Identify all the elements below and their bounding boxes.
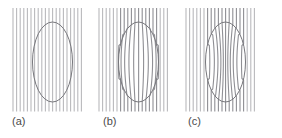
panel-c-label: (c) [188, 115, 201, 128]
panel-c-grating-line [228, 8, 229, 112]
panel-c-grating-line [242, 8, 244, 112]
figure-root: (a)(b)(c) [0, 0, 282, 138]
panel-c: (c) [0, 0, 282, 138]
panel-c-grating-line [237, 8, 240, 112]
panel-c-grating-line [222, 8, 223, 112]
panel-c-grating-line [211, 8, 214, 112]
panel-c-grating-line [208, 8, 210, 112]
panel-c-grating [0, 0, 282, 138]
